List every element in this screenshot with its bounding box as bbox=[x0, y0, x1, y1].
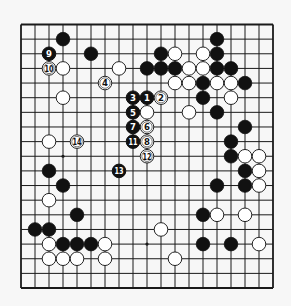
numbered-black-stone: 7 bbox=[126, 120, 140, 134]
move-number: 11 bbox=[129, 138, 138, 147]
white-stone bbox=[252, 164, 266, 178]
white-stone bbox=[182, 62, 196, 76]
move-number: 5 bbox=[130, 107, 136, 118]
numbered-black-stone: 9 bbox=[42, 47, 56, 61]
numbered-black-stone: 13 bbox=[112, 164, 126, 178]
numbered-white-stone: 14 bbox=[70, 135, 84, 149]
move-number: 4 bbox=[102, 77, 108, 88]
numbered-white-stone: 8 bbox=[140, 135, 154, 149]
white-stone bbox=[182, 76, 196, 90]
black-stone bbox=[224, 135, 238, 149]
black-stone bbox=[28, 223, 42, 237]
white-stone bbox=[196, 62, 210, 76]
move-number: 13 bbox=[115, 167, 124, 176]
go-board: 1234567891011121314 bbox=[0, 0, 291, 306]
move-number: 9 bbox=[46, 48, 52, 59]
numbered-white-stone: 10 bbox=[42, 62, 56, 76]
black-stone bbox=[238, 76, 252, 90]
white-stone bbox=[42, 237, 56, 251]
numbered-white-stone: 4 bbox=[98, 76, 112, 90]
white-stone bbox=[56, 91, 70, 105]
white-stone bbox=[238, 149, 252, 163]
black-stone bbox=[56, 237, 70, 251]
white-stone bbox=[168, 47, 182, 61]
white-stone bbox=[98, 237, 112, 251]
numbered-black-stone: 3 bbox=[126, 91, 140, 105]
move-number: 2 bbox=[158, 92, 164, 103]
white-stone bbox=[196, 47, 210, 61]
black-stone bbox=[56, 32, 70, 46]
white-stone bbox=[56, 62, 70, 76]
move-number: 12 bbox=[143, 153, 152, 162]
move-number: 10 bbox=[45, 65, 54, 74]
numbered-white-stone: 6 bbox=[140, 120, 154, 134]
black-stone bbox=[168, 62, 182, 76]
move-number: 7 bbox=[130, 121, 136, 132]
numbered-black-stone: 5 bbox=[126, 106, 140, 120]
numbered-black-stone: 11 bbox=[126, 135, 140, 149]
white-stone bbox=[154, 223, 168, 237]
white-stone bbox=[98, 252, 112, 266]
black-stone bbox=[70, 208, 84, 222]
white-stone bbox=[168, 76, 182, 90]
black-stone bbox=[196, 237, 210, 251]
move-number: 6 bbox=[144, 121, 150, 132]
white-stone bbox=[182, 106, 196, 120]
black-stone bbox=[56, 179, 70, 193]
black-stone bbox=[238, 179, 252, 193]
numbered-white-stone: 2 bbox=[154, 91, 168, 105]
white-stone bbox=[42, 252, 56, 266]
black-stone bbox=[210, 106, 224, 120]
black-stone bbox=[210, 179, 224, 193]
black-stone bbox=[210, 32, 224, 46]
white-stone bbox=[42, 135, 56, 149]
black-stone bbox=[210, 62, 224, 76]
star-point bbox=[145, 243, 148, 246]
black-stone bbox=[224, 237, 238, 251]
star-point bbox=[61, 155, 64, 158]
white-stone bbox=[210, 208, 224, 222]
black-stone bbox=[196, 91, 210, 105]
move-number: 3 bbox=[130, 92, 136, 103]
white-stone bbox=[252, 179, 266, 193]
white-stone bbox=[210, 76, 224, 90]
black-stone bbox=[210, 47, 224, 61]
white-stone bbox=[112, 62, 126, 76]
black-stone bbox=[84, 47, 98, 61]
numbered-white-stone: 12 bbox=[140, 149, 154, 163]
white-stone bbox=[140, 106, 154, 120]
black-stone bbox=[84, 237, 98, 251]
white-stone bbox=[238, 208, 252, 222]
numbered-black-stone: 1 bbox=[140, 91, 154, 105]
black-stone bbox=[154, 47, 168, 61]
black-stone bbox=[238, 120, 252, 134]
black-stone bbox=[42, 164, 56, 178]
move-number: 8 bbox=[144, 136, 150, 147]
white-stone bbox=[42, 193, 56, 207]
black-stone bbox=[224, 62, 238, 76]
white-stone bbox=[252, 149, 266, 163]
black-stone bbox=[70, 237, 84, 251]
black-stone bbox=[154, 62, 168, 76]
black-stone bbox=[42, 223, 56, 237]
black-stone bbox=[140, 62, 154, 76]
white-stone bbox=[70, 252, 84, 266]
move-number: 1 bbox=[144, 92, 150, 103]
white-stone bbox=[252, 237, 266, 251]
white-stone bbox=[224, 91, 238, 105]
black-stone bbox=[224, 149, 238, 163]
move-number: 14 bbox=[73, 138, 82, 147]
black-stone bbox=[196, 76, 210, 90]
white-stone bbox=[56, 252, 70, 266]
black-stone bbox=[238, 164, 252, 178]
white-stone bbox=[168, 252, 182, 266]
white-stone bbox=[224, 76, 238, 90]
black-stone bbox=[196, 208, 210, 222]
